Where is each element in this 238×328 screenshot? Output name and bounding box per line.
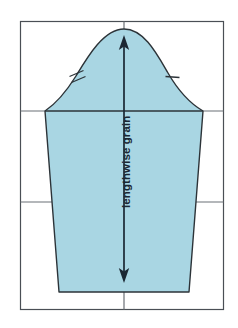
- pattern-diagram: [0, 0, 238, 328]
- figure-canvas: lengthwise grain: [0, 0, 238, 328]
